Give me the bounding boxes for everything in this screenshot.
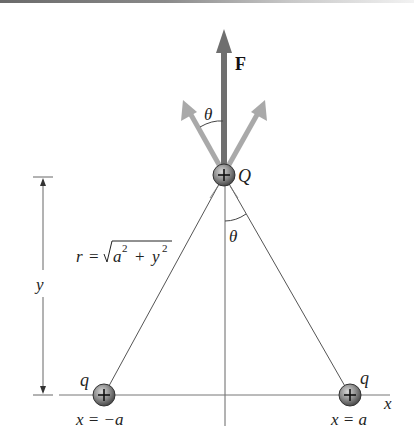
- svg-text:+: +: [135, 247, 145, 266]
- height-dimension: y: [33, 177, 53, 395]
- angle-label-top: θ: [204, 105, 212, 124]
- charge-q-right-label: q: [360, 368, 369, 388]
- svg-text:a: a: [113, 247, 122, 266]
- svg-text:y: y: [150, 247, 160, 266]
- distance-lines: [104, 175, 350, 395]
- coulomb-force-diagram: y F θ θ r = a 2 + y 2 Q: [0, 0, 414, 444]
- force-label: F: [235, 54, 246, 74]
- svg-text:=: =: [89, 247, 99, 266]
- component-arrow-right: [226, 100, 267, 170]
- charge-q-left-label: q: [80, 370, 89, 390]
- charge-q-left: [93, 384, 115, 406]
- charge-q-right: [339, 384, 361, 406]
- x-axis-label: x: [383, 394, 392, 413]
- svg-text:r: r: [76, 247, 83, 266]
- charge-Q-label: Q: [238, 166, 251, 186]
- height-label: y: [34, 275, 44, 294]
- force-arrow: [216, 29, 232, 168]
- angle-label-bottom: θ: [229, 227, 237, 246]
- charge-Q: [213, 164, 235, 186]
- component-arrow-left: [181, 100, 222, 170]
- right-position-label: x = a: [330, 410, 367, 429]
- left-position-label: x = −a: [75, 410, 124, 429]
- angle-arc-bottom: [225, 214, 246, 221]
- svg-text:2: 2: [162, 242, 168, 254]
- distance-formula: r = a 2 + y 2: [76, 241, 172, 266]
- svg-text:2: 2: [122, 242, 128, 254]
